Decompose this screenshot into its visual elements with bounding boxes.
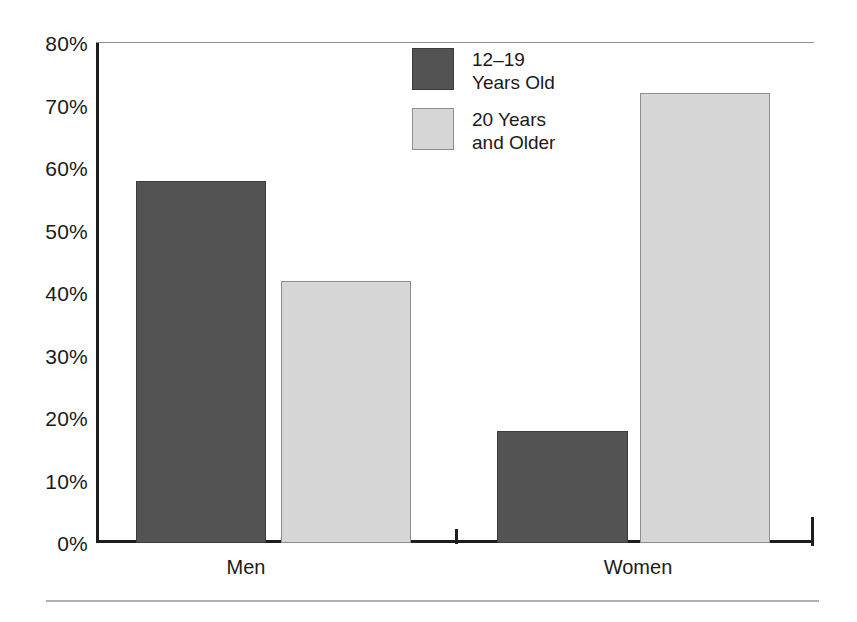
y-tick-label-20: 20% [2, 408, 88, 429]
bar-men-20-older[interactable] [281, 281, 411, 544]
legend-swatch-dark-icon [412, 48, 454, 90]
legend-swatch-light-icon [412, 108, 454, 150]
y-tick-label-50: 50% [2, 221, 88, 242]
y-tick-label-30: 30% [2, 346, 88, 367]
y-tick-label-0: 0% [2, 533, 88, 554]
legend: 12–19 Years Old 20 Years and Older [412, 48, 672, 168]
bar-women-12-19[interactable] [497, 431, 628, 544]
x-axis-label-women: Women [563, 556, 713, 578]
y-tick-label-70: 70% [2, 96, 88, 117]
legend-label-12-19: 12–19 Years Old [472, 48, 555, 94]
bar-chart-figure: 80% 70% 60% 50% 40% 30% 20% 10% 0% Men W… [0, 0, 857, 622]
y-axis: 80% 70% 60% 50% 40% 30% 20% 10% 0% [0, 0, 88, 622]
x-axis-label-men: Men [176, 556, 316, 578]
bar-men-12-19[interactable] [136, 181, 266, 544]
legend-label-20-older: 20 Years and Older [472, 108, 555, 154]
y-tick-label-60: 60% [2, 158, 88, 179]
legend-item-12-19[interactable]: 12–19 Years Old [412, 48, 672, 94]
y-tick-label-40: 40% [2, 283, 88, 304]
x-axis-group-tick [455, 529, 458, 544]
footer-divider [46, 600, 819, 602]
legend-item-20-older[interactable]: 20 Years and Older [412, 108, 672, 154]
y-tick-label-10: 10% [2, 471, 88, 492]
y-tick-label-80: 80% [2, 33, 88, 54]
